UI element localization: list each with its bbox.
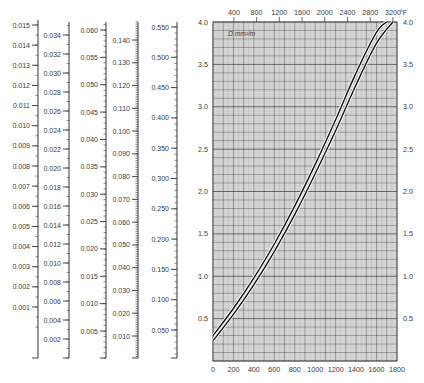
scale-tick-label: 0.020 [112, 310, 130, 317]
scale-tick-label: 0.002 [43, 336, 61, 343]
scale-tick-label: 0.002 [12, 283, 30, 290]
scale-tick-label: 0.120 [112, 82, 130, 89]
x-top-tick-label-fahrenheit: 1200 [271, 8, 287, 17]
conversion-scales: 0.0150.0140.0130.0120.0110.0100.0090.008… [12, 20, 177, 358]
x-tick-label-celsius: 400 [248, 365, 260, 374]
x-tick-label-celsius: 0 [211, 365, 215, 374]
scale-tick-label: 0.030 [43, 70, 61, 77]
scale-tick-label: 0.032 [43, 51, 61, 58]
y-tick-label-left: 0.5 [198, 314, 208, 323]
y-tick-label-left: 3.0 [198, 102, 208, 111]
y-tick-label-right: 1.5 [403, 229, 413, 238]
scale-tick-label: 0.015 [80, 273, 98, 280]
y-tick-label-right: 1.0 [403, 272, 413, 281]
x-top-tick-label-fahrenheit: 800 [251, 8, 263, 17]
scale-tick-label: 0.080 [112, 173, 130, 180]
scale-tick-label: 0.300 [151, 175, 169, 182]
scale-tick-label: 0.020 [43, 165, 61, 172]
scale-tick-label: 0.008 [12, 163, 30, 170]
x-top-tick-label-fahrenheit: 3200 [385, 8, 401, 17]
y-tick-label-right: 4.0 [403, 18, 413, 27]
scale-tick-label: 0.010 [43, 260, 61, 267]
scale-tick-label: 0.012 [43, 241, 61, 248]
scale-tick-label: 0.006 [43, 298, 61, 305]
x-tick-label-celsius: 1000 [307, 365, 323, 374]
x-tick-label-celsius: 800 [289, 365, 301, 374]
scale-tick-label: 0.250 [151, 205, 169, 212]
resistivity-chart-figure: 0.0150.0140.0130.0120.0110.0100.0090.008… [0, 0, 424, 383]
scale-tick-label: 0.005 [80, 328, 98, 335]
x-top-unit-label: °F [400, 8, 408, 17]
scale-tick-label: 0.030 [112, 287, 130, 294]
x-top-tick-label-fahrenheit: 2800 [362, 8, 378, 17]
scale-tick-label: 0.010 [112, 333, 130, 340]
x-top-tick-label-fahrenheit: 400 [228, 8, 240, 17]
scale-tick-label: 0.050 [112, 241, 130, 248]
scale-tick-label: 0.500 [151, 54, 169, 61]
scale-tick-label: 0.350 [151, 145, 169, 152]
y-tick-label-right: 3.5 [403, 60, 413, 69]
scale-tick-label: 0.035 [80, 163, 98, 170]
scale-5: 0.5500.5000.4500.4000.3500.3000.2500.200… [151, 22, 177, 358]
scale-tick-label: 0.024 [43, 127, 61, 134]
scale-tick-label: 0.150 [151, 266, 169, 273]
scale-tick-label: 0.008 [43, 279, 61, 286]
scale-tick-label: 0.050 [151, 327, 169, 334]
scale-tick-label: 0.010 [12, 122, 30, 129]
scale-tick-label: 0.100 [151, 296, 169, 303]
y-tick-label-right: 3.0 [403, 102, 413, 111]
y-tick-label-right: 0.5 [403, 314, 413, 323]
x-tick-label-celsius: 1400 [348, 365, 364, 374]
unit-annotation: Ω mm²/m [228, 30, 256, 37]
x-tick-label-celsius: 1200 [328, 365, 344, 374]
scale-tick-label: 0.045 [80, 109, 98, 116]
scale-tick-label: 0.130 [112, 59, 130, 66]
scale-tick-label: 0.015 [12, 22, 30, 29]
x-tick-label-celsius: 1600 [369, 365, 385, 374]
scale-1: 0.0150.0140.0130.0120.0110.0100.0090.008… [12, 20, 38, 358]
scale-tick-label: 0.013 [12, 62, 30, 69]
scale-tick-label: 0.005 [12, 223, 30, 230]
scale-3: 0.0600.0550.0500.0450.0400.0350.0300.025… [80, 22, 106, 358]
scale-tick-label: 0.060 [112, 219, 130, 226]
x-tick-label-celsius: 600 [268, 365, 280, 374]
scale-tick-label: 0.006 [12, 203, 30, 210]
x-tick-label-celsius: 200 [227, 365, 239, 374]
scale-tick-label: 0.026 [43, 108, 61, 115]
scale-tick-label: 0.004 [12, 243, 30, 250]
x-top-tick-label-fahrenheit: 2400 [339, 8, 355, 17]
scale-tick-label: 0.012 [12, 82, 30, 89]
scale-tick-label: 0.090 [112, 150, 130, 157]
scale-tick-label: 0.001 [12, 304, 30, 311]
y-tick-label-left: 2.5 [198, 145, 208, 154]
scale-tick-label: 0.010 [80, 300, 98, 307]
scale-tick-label: 0.028 [43, 89, 61, 96]
scale-tick-label: 0.011 [13, 102, 30, 109]
scale-tick-label: 0.025 [80, 218, 98, 225]
scale-tick-label: 0.016 [43, 203, 61, 210]
scale-tick-label: 0.022 [43, 146, 61, 153]
y-tick-label-left: 3.5 [198, 60, 208, 69]
scale-tick-label: 0.018 [43, 184, 61, 191]
scale-tick-label: 0.014 [12, 42, 30, 49]
y-tick-label-right: 2.5 [403, 145, 413, 154]
scale-tick-label: 0.007 [12, 183, 30, 190]
y-tick-label-right: 2.0 [403, 187, 413, 196]
scale-tick-label: 0.003 [12, 263, 30, 270]
scale-2: 0.0340.0320.0300.0280.0260.0240.0220.020… [43, 22, 69, 358]
scale-tick-label: 0.100 [112, 128, 130, 135]
scale-tick-label: 0.110 [113, 105, 130, 112]
resistivity-temperature-chart: 0200400600800100012001400160018004008001… [198, 8, 413, 374]
scale-tick-label: 0.070 [112, 196, 130, 203]
scale-tick-label: 0.050 [80, 81, 98, 88]
scale-tick-label: 0.060 [80, 27, 98, 34]
scale-tick-label: 0.030 [80, 191, 98, 198]
y-tick-label-left: 1.5 [198, 229, 208, 238]
scale-4: 0.1400.1300.1200.1100.1000.0900.0800.070… [112, 22, 138, 358]
y-tick-label-left: 2.0 [198, 187, 208, 196]
scale-tick-label: 0.009 [12, 142, 30, 149]
scale-tick-label: 0.004 [43, 317, 61, 324]
scale-tick-label: 0.040 [112, 264, 130, 271]
y-tick-label-left: 1.0 [198, 272, 208, 281]
y-tick-label-left: 4.0 [198, 18, 208, 27]
